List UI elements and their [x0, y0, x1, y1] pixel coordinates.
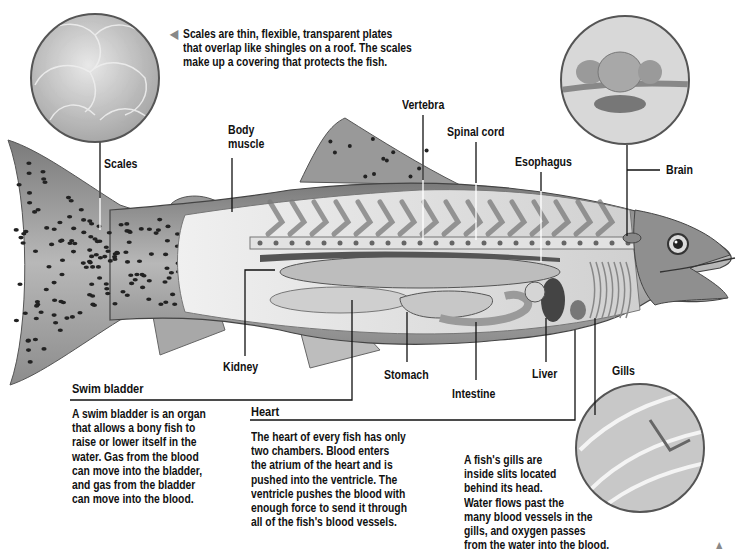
spot: [52, 313, 57, 317]
triangle-left-icon: ◀: [170, 27, 178, 41]
fin-spot: [363, 175, 367, 179]
spot: [133, 278, 138, 282]
spot: [21, 232, 26, 236]
vertebra: [418, 241, 423, 246]
spot: [58, 300, 63, 304]
spot: [96, 265, 101, 269]
spot: [127, 241, 132, 245]
spot: [70, 315, 75, 319]
label-spinal-cord: Spinal cord: [447, 125, 505, 139]
vertebra: [306, 241, 311, 246]
vertebra: [546, 241, 551, 246]
spot: [79, 208, 84, 212]
swim-bladder-organ: [280, 256, 560, 288]
vertebra: [530, 241, 535, 246]
spot: [26, 348, 31, 352]
spot: [44, 226, 49, 230]
fin-spot: [385, 159, 389, 163]
spot: [125, 294, 130, 298]
spot: [162, 280, 167, 284]
vertebra: [450, 241, 455, 246]
spot: [146, 298, 151, 302]
spot: [64, 316, 69, 320]
spot: [128, 230, 133, 234]
spot: [90, 294, 95, 298]
spot: [105, 292, 110, 296]
spot: [123, 250, 128, 254]
spot: [112, 302, 117, 306]
vertebra: [514, 241, 519, 246]
spot: [35, 300, 40, 304]
spot: [81, 261, 86, 265]
vertebra: [338, 241, 343, 246]
spot: [147, 228, 152, 232]
fish-head: [634, 210, 730, 305]
spot: [134, 273, 139, 277]
spot: [52, 299, 57, 303]
spot: [154, 231, 159, 235]
spot: [41, 177, 46, 181]
spot: [39, 310, 44, 314]
fin-spot: [348, 144, 352, 148]
spot: [17, 283, 22, 287]
fin-spot: [333, 151, 337, 155]
spot: [94, 253, 99, 257]
spot: [88, 235, 93, 239]
spot: [108, 259, 113, 263]
spot: [165, 239, 170, 243]
fin-spot: [381, 157, 385, 161]
spot: [119, 223, 124, 227]
label-vertebra: Vertebra: [402, 98, 444, 112]
vertebra: [562, 241, 567, 246]
vertebra: [386, 241, 391, 246]
spot: [27, 171, 32, 175]
spot: [124, 222, 129, 226]
scales-magnifier: [31, 14, 159, 142]
spot: [52, 281, 57, 285]
spot: [139, 227, 144, 231]
fin-spot: [371, 137, 375, 141]
spot: [33, 249, 38, 253]
spot: [167, 276, 172, 280]
spot: [59, 273, 64, 277]
spot: [26, 339, 31, 343]
label-scales: Scales: [104, 157, 137, 171]
spot: [87, 248, 92, 252]
heart-heading: Heart: [251, 405, 279, 419]
heart-organ: [525, 282, 545, 302]
spot: [41, 347, 46, 351]
spot: [87, 219, 92, 223]
spot: [14, 228, 19, 232]
spot: [18, 236, 23, 240]
vertebra: [594, 241, 599, 246]
spot: [26, 162, 31, 166]
spot: [90, 265, 95, 269]
spot: [58, 328, 63, 332]
spot: [81, 218, 86, 222]
fin-spot: [417, 166, 421, 170]
gonad-organ: [270, 287, 410, 313]
spot: [105, 249, 110, 253]
spot: [140, 286, 145, 290]
fin-spot: [372, 172, 376, 176]
spot: [69, 199, 74, 203]
label-kidney: Kidney: [223, 360, 258, 374]
label-esophagus: Esophagus: [515, 155, 572, 169]
spot: [49, 243, 54, 247]
spot: [53, 321, 58, 325]
dorsal-fin: [300, 118, 460, 185]
spot: [84, 265, 89, 269]
spot: [42, 181, 47, 185]
swim-bladder-heading: Swim bladder: [72, 382, 144, 396]
spot: [172, 303, 177, 307]
label-gills: Gills: [612, 364, 635, 378]
brain-organ: [623, 233, 641, 243]
label-brain: Brain: [666, 163, 693, 177]
spot: [165, 225, 170, 229]
vertebra: [402, 241, 407, 246]
label-body-muscle: Body muscle: [228, 123, 264, 151]
swim-bladder-text: A swim bladder is an organ that allows a…: [72, 407, 206, 506]
spot: [164, 266, 169, 270]
spot: [89, 282, 94, 286]
spot: [57, 221, 62, 225]
